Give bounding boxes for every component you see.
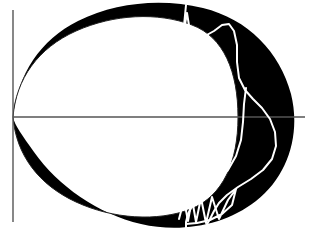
phase-plane-plot — [0, 0, 312, 232]
figure-root — [0, 0, 312, 232]
